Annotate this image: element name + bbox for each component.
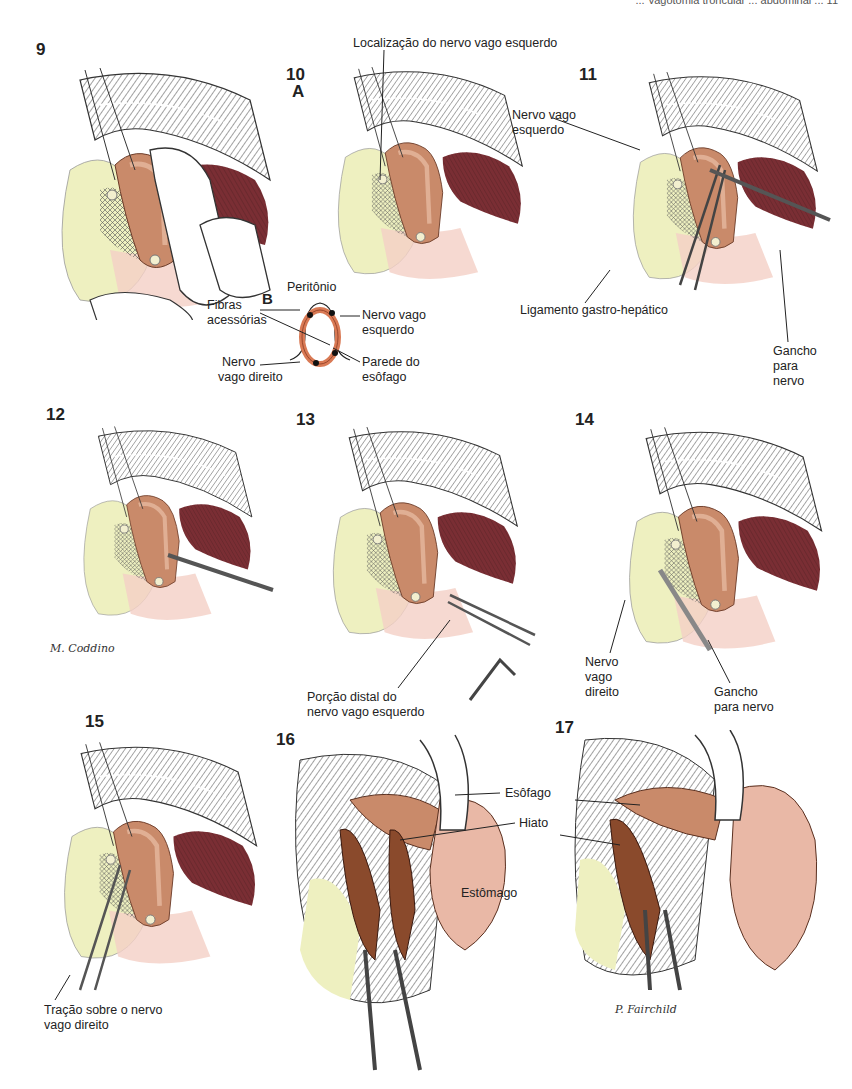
label-p11-nervo2: nervo (773, 374, 804, 389)
illustration-panel-17 (565, 730, 845, 1010)
panel-number-14: 14 (575, 410, 594, 430)
illustration-panel-9 (40, 60, 280, 320)
label-p11-gancho: Gancho (773, 344, 817, 359)
label-esofago-wall: esôfago (362, 370, 406, 385)
label-p15-vago: vago direito (44, 1018, 109, 1033)
label-acessorias: acessórias (207, 313, 267, 328)
illustration-panel-14 (600, 420, 840, 660)
label-localizacao: Localização do nervo vago esquerdo (353, 36, 557, 51)
label-vago-direito: vago direito (218, 370, 283, 385)
panel-number-9: 9 (36, 40, 45, 60)
label-fibras: Fibras (207, 298, 242, 313)
panel-number-11: 11 (579, 65, 597, 85)
panel-number-15: 15 (85, 712, 104, 732)
signature-fairchild: P. Fairchild (615, 1003, 677, 1016)
label-p11-esquerdo: esquerdo (512, 123, 564, 138)
label-p16-estomago: Estômago (461, 886, 517, 901)
illustration-panel-16 (280, 730, 540, 1080)
illustration-panel-13 (300, 420, 550, 710)
label-peritonio: Peritônio (287, 280, 336, 295)
illustration-panel-11 (600, 65, 840, 295)
label-nervo-vago: Nervo vago (362, 308, 426, 323)
label-p13-nervo: nervo vago esquerdo (307, 705, 424, 720)
label-p14-gancho: Gancho (714, 685, 758, 700)
label-parede: Parede do (362, 355, 420, 370)
label-nervo: Nervo (222, 355, 255, 370)
label-ligamento: Ligamento gastro-hepático (520, 303, 668, 318)
label-p16-esofago: Esôfago (505, 786, 551, 801)
illustration-panel-12 (48, 420, 278, 630)
label-p14-direito: direito (585, 685, 619, 700)
label-p11-nervo: Nervo vago (512, 108, 576, 123)
inset-b-crosssection (280, 295, 360, 375)
label-p14-vago: vago (585, 670, 612, 685)
illustration-panel-10a (300, 60, 550, 290)
label-p14-nervo: Nervo (585, 655, 618, 670)
label-p11-para: para (773, 359, 798, 374)
label-p15-tracao: Tração sobre o nervo (44, 1003, 162, 1018)
inset-letter-b: B (262, 290, 273, 307)
signature-coddino: M. Coddino (50, 642, 115, 655)
label-p13-porcao: Porção distal do (307, 690, 397, 705)
label-p14-para-nervo: para nervo (714, 700, 774, 715)
running-header: ... Vagotomia troncular ... abdominal ..… (635, 0, 838, 6)
illustration-panel-15 (40, 735, 270, 995)
label-esquerdo: esquerdo (362, 323, 414, 338)
label-p16-hiato: Hiato (519, 816, 548, 831)
